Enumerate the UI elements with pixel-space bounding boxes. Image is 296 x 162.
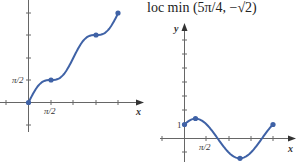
left-x-arrow-icon xyxy=(136,100,144,106)
left-y-tick-label: π/2 xyxy=(12,75,24,85)
left-curve xyxy=(29,13,119,103)
right-x-tick-label: π/2 xyxy=(199,142,211,152)
left-x-axis-label: x xyxy=(135,106,141,117)
figure-canvas: π/2 π/2 x y xyxy=(0,0,296,162)
left-x-tick-label: π/2 xyxy=(44,106,56,116)
right-y-axis-label: y xyxy=(173,23,179,34)
right-x-arrow-icon xyxy=(288,136,296,142)
left-graph: π/2 π/2 x xyxy=(0,0,144,132)
right-x-axis-label: x xyxy=(287,143,293,154)
right-y-arrow-icon xyxy=(182,23,188,31)
right-graph: y 1 π/2 x xyxy=(160,23,296,162)
right-y-tick-label: 1 xyxy=(177,120,182,130)
